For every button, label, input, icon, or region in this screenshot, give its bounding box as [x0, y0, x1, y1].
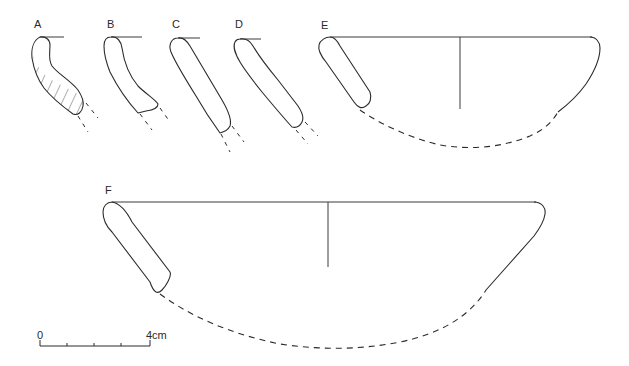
profile-c-reconstruction-line	[232, 126, 244, 142]
profile-label-a: A	[34, 19, 41, 30]
profile-d-reconstruction-line	[305, 122, 318, 136]
profile-f	[103, 202, 545, 348]
profile-label-f: F	[105, 185, 112, 196]
profile-f-reconstructed-base	[160, 290, 486, 348]
profile-a-reconstruction-line	[86, 103, 98, 118]
profile-b	[104, 37, 170, 130]
scale-start-label: 0	[37, 330, 43, 341]
profile-e	[319, 37, 600, 148]
profile-f-section	[103, 202, 170, 292]
scale-bar	[40, 340, 150, 346]
profile-d	[234, 39, 318, 144]
profile-e-section	[319, 37, 371, 108]
scale-bar-line	[40, 340, 150, 346]
profile-e-right-wall	[558, 37, 600, 112]
profile-d-section	[234, 39, 303, 127]
profile-e-reconstructed-base	[360, 110, 558, 148]
profile-a	[32, 37, 98, 132]
profile-c	[170, 38, 244, 152]
profile-label-d: D	[235, 19, 243, 30]
profile-drawing-canvas: A B C D E F 0 4cm	[0, 0, 629, 366]
profile-c-section	[170, 38, 231, 133]
profile-label-e: E	[321, 20, 328, 31]
profile-label-c: C	[172, 19, 180, 30]
profile-f-right-wall	[486, 202, 545, 290]
profile-a-section	[32, 37, 83, 115]
profile-b-section	[104, 37, 158, 113]
profile-label-b: B	[107, 19, 114, 30]
profile-b-reconstruction-line	[160, 108, 170, 122]
scale-end-label: 4cm	[146, 330, 167, 341]
